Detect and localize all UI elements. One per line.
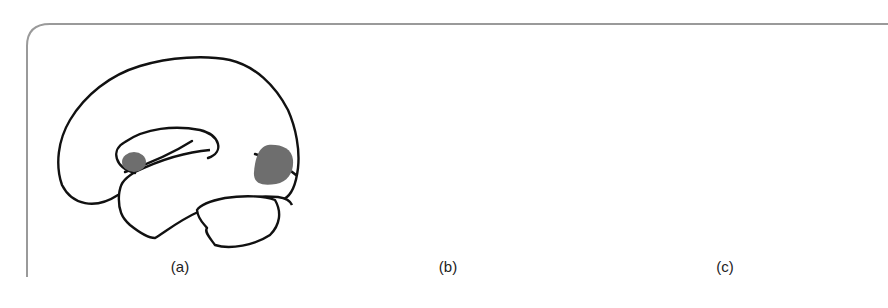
activation-posterior xyxy=(254,145,293,185)
activation-anterior xyxy=(122,152,146,172)
panel-label-b: (b) xyxy=(418,258,478,275)
brain-panel-a xyxy=(58,57,298,247)
cerebellum xyxy=(197,196,279,247)
panel-label-c: (c) xyxy=(695,258,755,275)
panel-label-a: (a) xyxy=(150,258,210,275)
